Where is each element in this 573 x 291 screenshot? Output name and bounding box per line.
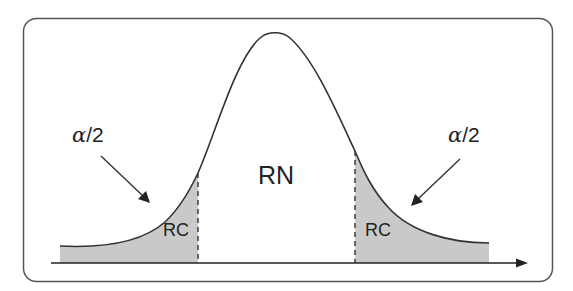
alpha-divisor: /2 <box>86 123 104 146</box>
alpha-half-label-left: α/2 <box>72 124 104 146</box>
alpha-symbol: α <box>72 123 86 147</box>
critical-region-label-left: RC <box>163 221 189 239</box>
alpha-symbol: α <box>448 123 462 147</box>
alpha-half-label-right: α/2 <box>448 124 480 146</box>
diagram-container: α/2 α/2 RN RC RC <box>0 0 573 291</box>
acceptance-region-label: RN <box>258 163 294 188</box>
alpha-divisor: /2 <box>462 123 480 146</box>
critical-region-label-right: RC <box>365 221 391 239</box>
